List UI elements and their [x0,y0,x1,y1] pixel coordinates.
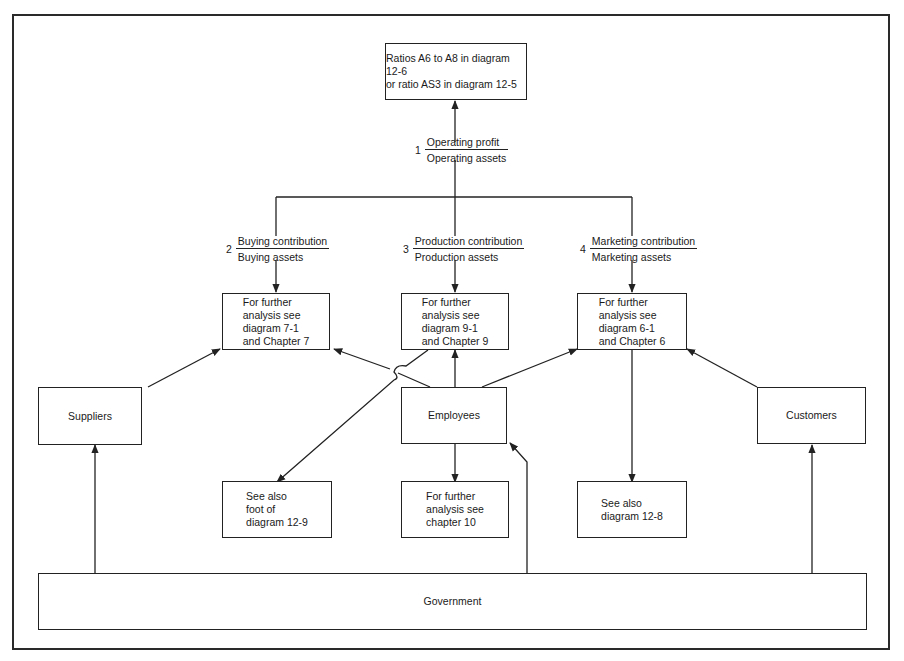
see-also-12-8-box: See also diagram 12-8 [577,481,687,538]
government-box: Government [38,573,867,630]
top-reference-box: Ratios A6 to A8 in diagram 12-6 or ratio… [385,43,527,100]
buying-analysis-label: For further analysis see diagram 7-1 and… [243,296,310,348]
ratio-number: 1 [415,144,421,156]
diagram-canvas: Ratios A6 to A8 in diagram 12-6 or ratio… [0,0,904,661]
ratio-numerator: Operating profit [425,136,508,150]
marketing-analysis-label: For further analysis see diagram 6-1 and… [599,296,666,348]
ratio-denominator: Production assets [413,249,524,263]
ratio-number: 2 [226,243,232,255]
customers-label: Customers [786,409,837,422]
ratio-numerator: Marketing contribution [590,235,697,249]
see-also-foot-box: See also foot of diagram 12-9 [222,481,332,538]
top-reference-label: Ratios A6 to A8 in diagram 12-6 or ratio… [386,52,526,91]
ratio-marketing: 4 Marketing contribution Marketing asset… [580,235,697,263]
ratio-numerator: Production contribution [413,235,524,249]
buying-analysis-box: For further analysis see diagram 7-1 and… [222,293,330,350]
employees-label: Employees [428,409,480,422]
government-label: Government [424,595,482,608]
chapter10-box: For further analysis see chapter 10 [401,481,509,538]
marketing-analysis-box: For further analysis see diagram 6-1 and… [577,293,687,350]
ratio-numerator: Buying contribution [236,235,329,249]
ratio-denominator: Operating assets [425,150,508,164]
ratio-number: 4 [580,243,586,255]
customers-box: Customers [757,387,866,444]
ratio-denominator: Marketing assets [590,249,697,263]
ratio-denominator: Buying assets [236,249,329,263]
employees-box: Employees [401,387,507,444]
chapter10-label: For further analysis see chapter 10 [426,490,484,529]
suppliers-label: Suppliers [68,410,112,423]
suppliers-box: Suppliers [38,387,142,445]
see-also-12-8-label: See also diagram 12-8 [601,497,663,523]
production-analysis-box: For further analysis see diagram 9-1 and… [401,293,509,350]
ratio-operating: 1 Operating profit Operating assets [415,136,508,164]
ratio-production: 3 Production contribution Production ass… [403,235,524,263]
see-also-foot-label: See also foot of diagram 12-9 [246,490,308,529]
production-analysis-label: For further analysis see diagram 9-1 and… [422,296,489,348]
ratio-number: 3 [403,243,409,255]
ratio-buying: 2 Buying contribution Buying assets [226,235,329,263]
